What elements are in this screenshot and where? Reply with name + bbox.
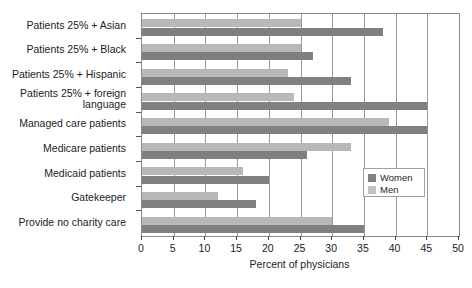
bar-men: [142, 192, 218, 200]
category-tick: [136, 62, 141, 63]
x-tick: [204, 236, 205, 240]
bar-women: [142, 77, 351, 85]
bar-women: [142, 200, 256, 208]
bar-women: [142, 151, 307, 159]
bar-men: [142, 19, 301, 27]
category-label: Patients 25% + Hispanic: [12, 69, 126, 81]
x-tick-label: 30: [325, 242, 337, 254]
category-tick: [136, 136, 141, 137]
x-tick-label: 40: [389, 242, 401, 254]
bar-women: [142, 52, 313, 60]
legend-label-women: Women: [380, 173, 413, 183]
category-tick: [136, 38, 141, 39]
gridline: [396, 14, 397, 236]
x-tick: [458, 236, 459, 240]
x-tick-label: 35: [357, 242, 369, 254]
legend-item-men: Men: [368, 184, 424, 195]
x-tick: [331, 236, 332, 240]
chart-legend: Women Men: [363, 168, 425, 197]
x-tick: [141, 236, 142, 240]
category-label: Medicare patients: [43, 143, 126, 155]
x-axis-title: Percent of physicians: [141, 258, 458, 270]
bar-women: [142, 28, 383, 36]
x-tick-label: 0: [138, 242, 144, 254]
gridline: [427, 14, 428, 236]
category-tick: [136, 186, 141, 187]
x-tick-label: 45: [420, 242, 432, 254]
bar-chart: Patients 25% + AsianPatients 25% + Black…: [0, 0, 472, 288]
category-tick: [136, 210, 141, 211]
category-label: Medicaid patients: [44, 168, 126, 180]
category-label: Patients 25% + foreign language: [20, 88, 126, 111]
legend-item-women: Women: [368, 172, 424, 183]
category-label: Provide no charity care: [19, 217, 126, 229]
x-tick-label: 10: [199, 242, 211, 254]
bar-men: [142, 143, 351, 151]
bar-men: [142, 167, 243, 175]
legend-label-men: Men: [380, 185, 398, 195]
category-axis: Patients 25% + AsianPatients 25% + Black…: [0, 13, 134, 235]
category-tick: [136, 87, 141, 88]
bar-men: [142, 217, 332, 225]
category-label: Gatekeeper: [71, 192, 126, 204]
x-tick: [300, 236, 301, 240]
plot-area: [141, 13, 460, 237]
category-label: Managed care patients: [19, 118, 126, 130]
x-tick: [426, 236, 427, 240]
bar-women: [142, 126, 427, 134]
bar-men: [142, 118, 389, 126]
category-tick: [136, 161, 141, 162]
x-tick-label: 25: [294, 242, 306, 254]
x-tick: [363, 236, 364, 240]
category-tick: [136, 112, 141, 113]
x-tick: [236, 236, 237, 240]
x-tick: [268, 236, 269, 240]
bar-men: [142, 44, 301, 52]
bar-women: [142, 225, 364, 233]
x-tick-label: 20: [262, 242, 274, 254]
x-tick-label: 5: [170, 242, 176, 254]
x-tick-label: 50: [452, 242, 464, 254]
category-label: Patients 25% + Asian: [26, 20, 126, 32]
x-tick: [395, 236, 396, 240]
bar-men: [142, 69, 288, 77]
bar-women: [142, 176, 269, 184]
legend-swatch-men-icon: [368, 186, 376, 194]
x-tick: [173, 236, 174, 240]
bar-women: [142, 102, 427, 110]
bar-men: [142, 93, 294, 101]
category-label: Patients 25% + Black: [26, 44, 126, 56]
x-tick-label: 15: [230, 242, 242, 254]
legend-swatch-women-icon: [368, 174, 376, 182]
